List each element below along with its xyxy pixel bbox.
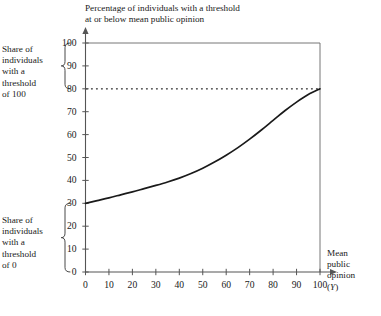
x-axis-label-line-4: (Y)	[327, 282, 379, 293]
y-axis-arrow-icon	[82, 27, 88, 34]
y-tick-label-90: 90	[53, 61, 77, 71]
y-tick-label-60: 60	[53, 130, 77, 140]
y-tick-label-50: 50	[53, 153, 77, 163]
x-tick-label-80: 80	[261, 280, 285, 290]
x-tick-label-30: 30	[144, 280, 168, 290]
y-tick-label-100: 100	[53, 38, 77, 48]
x-axis-label-line-2: public	[327, 259, 379, 270]
y-tick-label-40: 40	[53, 175, 77, 185]
y-tick-label-30: 30	[53, 198, 77, 208]
x-axis-label: Mean public opinion (Y)	[327, 248, 379, 293]
x-tick-label-60: 60	[214, 280, 238, 290]
x-tick-label-90: 90	[285, 280, 309, 290]
x-tick-label-0: 0	[74, 280, 98, 290]
y-tick-label-0: 0	[53, 267, 77, 277]
y-tick-label-10: 10	[53, 244, 77, 254]
x-axis-label-line-1: Mean	[327, 248, 379, 259]
y-tick-label-80: 80	[53, 84, 77, 94]
x-tick-label-70: 70	[238, 280, 262, 290]
series-line-percentage-at-or-below-mean	[86, 89, 321, 204]
x-axis-label-line-3: opinion	[327, 270, 379, 281]
x-axis-variable-symbol: Y	[330, 282, 335, 292]
x-tick-label-10: 10	[97, 280, 121, 290]
x-tick-label-50: 50	[191, 280, 215, 290]
curly-brace-threshold-0	[61, 203, 70, 272]
y-tick-label-70: 70	[53, 107, 77, 117]
x-tick-label-40: 40	[167, 280, 191, 290]
chart-figure: Percentage of individuals with a thresho…	[0, 0, 381, 316]
x-tick-label-20: 20	[120, 280, 144, 290]
y-tick-label-20: 20	[53, 221, 77, 231]
